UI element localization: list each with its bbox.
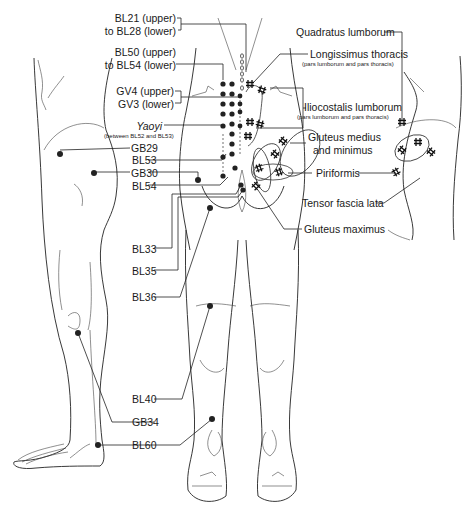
label-gluteus-medius: Gluteus medius <box>308 131 381 143</box>
label-bl40: BL40 <box>132 393 157 405</box>
label-piriformis: Piriformis <box>316 167 360 179</box>
label-gv4: GV4 (upper) <box>110 85 174 97</box>
label-bl54: BL54 <box>132 180 157 192</box>
label-gb34: GB34 <box>132 416 159 428</box>
spinous-processes <box>241 54 244 90</box>
label-quadratus-lumborum: Quadratus lumborum <box>296 26 395 38</box>
label-longissimus-note: (pars lumborum and pars thoracis) <box>302 61 394 68</box>
label-gluteus-maximus: Gluteus maximus <box>304 223 385 235</box>
label-gb29: GB29 <box>131 142 158 154</box>
dot-bl53 <box>220 154 225 159</box>
label-yaoyi-note: (between BL52 and BL53) <box>104 133 174 140</box>
dot-gb30-lateral <box>91 170 97 176</box>
label-bl50: BL50 (upper) <box>100 46 176 58</box>
label-bl33: BL33 <box>132 243 157 255</box>
dot-bl35 <box>240 187 245 192</box>
dot-bl54 <box>220 173 225 178</box>
label-gluteus-minimus: and minimus <box>313 144 373 156</box>
label-gv3: GV3 (lower) <box>110 98 174 110</box>
label-yaoyi: Yaoyi <box>110 120 162 132</box>
dot-bl60-lateral <box>95 442 101 448</box>
dot-bl60 <box>209 416 215 422</box>
dot-gb29-lateral <box>57 151 63 157</box>
label-bl60: BL60 <box>132 439 157 451</box>
right-gluteus-medius-region <box>391 130 434 167</box>
label-iliocostalis-lumborum: Iliocostalis lumborum <box>304 101 402 113</box>
label-iliocostalis-note: (pars lumborum and pars thoracis) <box>297 114 389 121</box>
dot-bl36 <box>207 205 213 211</box>
label-bl36: BL36 <box>132 291 157 303</box>
dot-gb34 <box>75 330 81 336</box>
dot-gb30 <box>195 177 201 183</box>
label-bl53: BL53 <box>132 154 157 166</box>
dot-bl33 <box>238 182 243 187</box>
label-bl54-range: to BL54 (lower) <box>96 59 176 71</box>
label-tensor-fascia-lata: Tensor fascia lata <box>302 197 384 209</box>
label-bl21: BL21 (upper) <box>100 12 176 24</box>
label-bl35: BL35 <box>132 265 157 277</box>
left-lateral-leg-outline <box>14 58 118 469</box>
dot-bl40 <box>207 303 213 309</box>
label-bl28: to BL28 (lower) <box>96 25 176 37</box>
label-longissimus-thoracis: Longissimus thoracis <box>310 48 408 60</box>
dot-yaoyi <box>220 123 225 128</box>
acupoint-diagram: BL21 (upper) to BL28 (lower) BL50 (upper… <box>0 0 469 514</box>
right-lateral-hip-outline <box>388 56 461 240</box>
label-gb30: GB30 <box>131 167 158 179</box>
